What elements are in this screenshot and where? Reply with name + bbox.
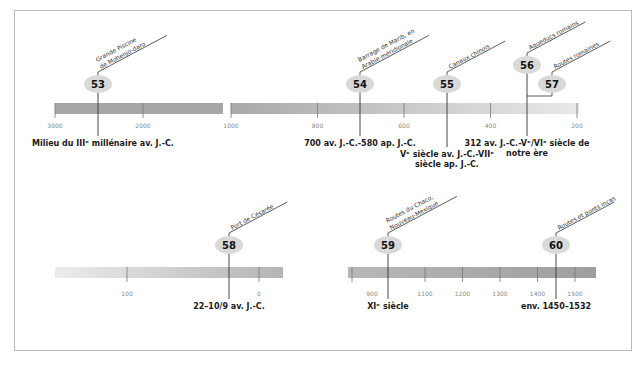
caption-underline [447, 41, 505, 72]
caption-underline [556, 202, 614, 233]
event-number: 60 [549, 240, 563, 251]
tick-label: 800 [312, 122, 324, 129]
event-54: Arabie méridionaleBarrage de Marib, en54… [304, 27, 429, 148]
event-caption: Routes romaines [552, 40, 600, 70]
tick-label: 900 [366, 290, 378, 297]
tick-label: 1100 [417, 290, 432, 297]
timeline-bottom-left: 1000Port de Césarée5822–10/9 av. J.-C. [55, 202, 287, 311]
event-date: Milieu du IIIᵉ millénaire av. J.-C. [32, 138, 174, 148]
tick-label: 3000 [47, 122, 62, 129]
event-caption: Port de Césarée [229, 202, 275, 231]
event-caption: Nouveau-MexiqueRoutes du Chaco, [384, 192, 440, 232]
event-date: notre ère [506, 148, 549, 158]
tick-label: 2000 [135, 122, 150, 129]
event-caption: de Mohenjo-daroGrande Piscine [94, 33, 147, 71]
event-date: siècle ap. J.-C. [415, 159, 479, 169]
event-date: XIᵉ siècle [367, 301, 409, 311]
event-53: de Mohenjo-daroGrande Piscine53Milieu du… [32, 33, 174, 148]
caption-underline [229, 202, 287, 233]
event-number: 54 [353, 79, 367, 90]
tick-label: 0 [257, 290, 261, 297]
caption-underline [552, 41, 610, 72]
event-caption: Aqueducs romains [527, 19, 580, 52]
timeline-bar [55, 103, 223, 114]
timeline-bottom-right: 90011001200130014001500Nouveau-MexiqueRo… [348, 192, 617, 311]
event-number: 56 [520, 60, 534, 71]
event-number: 53 [91, 79, 105, 90]
tick-label: 1000 [223, 122, 238, 129]
event-number: 55 [440, 79, 454, 90]
tick-label: 200 [571, 122, 583, 129]
timeline-bar [348, 267, 596, 278]
event-date: 312 av. J.-C.-Vᵉ/VIᵉ siècle de [465, 138, 590, 148]
event-58: Port de Césarée5822–10/9 av. J.-C. [193, 202, 287, 311]
event-number: 58 [222, 240, 236, 251]
event-59: Nouveau-MexiqueRoutes du Chaco,59XIᵉ siè… [367, 192, 457, 311]
event-caption: Arabie méridionaleBarrage de Marib, en [356, 27, 419, 70]
event-caption: Routes et ponts incas [556, 194, 617, 231]
event-date: 22–10/9 av. J.-C. [193, 302, 265, 311]
event-date: env. 1450–1532 [521, 302, 591, 311]
event-56: Aqueducs romains56312 av. J.-C.-Vᵉ/VIᵉ s… [465, 19, 590, 158]
tick-label: 100 [121, 290, 133, 297]
tick-label: 1300 [492, 290, 507, 297]
timeline-top-left: 30002000de Mohenjo-daroGrande Piscine53M… [32, 33, 223, 148]
caption-underline [527, 22, 585, 53]
timeline-diagram: 30002000de Mohenjo-daroGrande Piscine53M… [0, 0, 644, 366]
event-number: 59 [381, 240, 395, 251]
timeline-top-right: 1000800600400200Arabie méridionaleBarrag… [223, 19, 610, 169]
tick-label: 1500 [567, 290, 582, 297]
event-number: 57 [545, 79, 559, 90]
tick-label: 1400 [530, 290, 545, 297]
event-caption: Canaux chinois [447, 42, 491, 70]
tick-label: 1200 [455, 290, 470, 297]
event-date: Vᵉ siècle av. J.-C.-VIIᵉ [400, 149, 494, 159]
timeline-bar [55, 267, 283, 278]
tick-label: 600 [398, 122, 410, 129]
event-date: 700 av. J.-C.-580 ap. J.-C. [304, 139, 416, 148]
tick-label: 400 [485, 122, 497, 129]
